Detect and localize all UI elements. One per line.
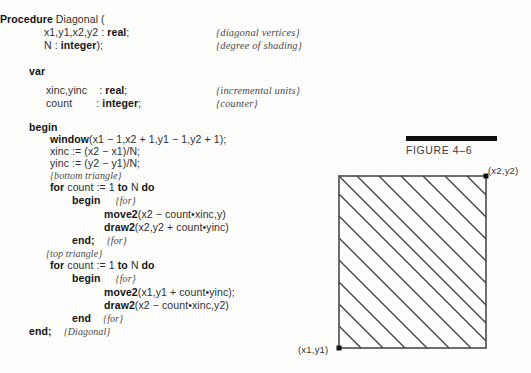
code-keyword: move2 [104,208,138,220]
code-line: begin {for} [72,273,136,284]
hatch-line [339,176,486,323]
vertex-label-x1y1: (x1,y1) [298,344,328,355]
code-text: count : [46,97,102,109]
code-keyword: begin [29,121,58,133]
vertex-dot-bottom-left [337,346,342,351]
code-line: {bottom triangle} [50,170,122,181]
code-text: ); [96,39,103,51]
hatch-line [339,238,449,348]
code-line: window(x1 − 1,x2 + 1,y1 − 1,y2 + 1); [50,134,226,145]
code-text: xinc,yinc : [46,84,105,96]
code-line: count : integer; [46,98,141,109]
code-keyword: draw2 [104,299,135,311]
code-text: (x2 − count•xinc,y) [138,208,226,220]
code-text: (x1 − 1,x2 + 1,y1 − 1,y2 + 1); [89,133,226,145]
code-comment: {for} [116,195,136,206]
code-text: ; [138,97,141,109]
vertex-label-x2y2: (x2,y2) [488,165,518,176]
side-comment: {degree of shading} [216,40,302,51]
code-keyword: integer [61,39,97,51]
code-text: count := 1 [67,181,117,193]
side-comment: {diagonal vertices} [216,27,300,38]
hatch-line [339,260,427,348]
document-page: Procedure Diagonal (x1,y1,x2,y2 : real;N… [0,0,531,373]
code-comment: {bottom triangle} [50,170,122,181]
code-text: xinc := (x2 − x1)/N; [50,145,140,157]
code-keyword: draw2 [104,221,135,233]
code-keyword: begin [72,272,101,284]
code-keyword: for [50,181,67,193]
code-line: end; {Diagonal} [29,326,110,337]
code-line: begin [29,122,58,133]
code-keyword: var [29,65,45,77]
code-line: end {for} [72,313,123,324]
code-comment: {for} [107,235,127,246]
code-comment: {Diagonal} [64,326,111,337]
code-text [101,272,116,284]
code-text: N : [44,39,61,51]
code-text: ; [126,26,129,38]
hatch-line [467,176,486,195]
code-text: (x1,y1 + count•yinc); [138,286,235,298]
code-line: begin {for} [72,195,136,206]
code-line: N : integer); [44,40,103,51]
code-line: {top triangle} [46,248,102,259]
code-text [91,312,103,324]
code-line: var [29,66,45,77]
code-keyword: window [50,133,89,145]
hatched-rectangle-diagram [290,125,531,373]
code-keyword: end; [29,325,52,337]
hatch-line [445,176,486,217]
figure-block: FIGURE 4–6 (x2,y2) (x1,y1) [290,125,531,373]
code-text [52,325,64,337]
code-keyword: integer [102,97,138,109]
code-keyword: real [107,26,126,38]
code-keyword: do [142,181,155,193]
code-listing: Procedure Diagonal (x1,y1,x2,y2 : real;N… [0,0,300,373]
code-line: move2(x2 − count•xinc,y) [104,209,226,220]
code-text: x1,y1,x2,y2 : [44,26,107,38]
code-keyword: begin [72,194,101,206]
code-keyword: for [50,259,67,271]
code-comment: {top triangle} [46,248,102,259]
code-line: for count := 1 to N do [50,182,155,193]
code-text: (x2,y2 + count•yinc) [135,221,229,233]
code-text: Diagonal ( [56,13,105,25]
rectangle-outline [339,176,486,348]
code-text: N [131,259,142,271]
code-line: xinc,yinc : real; [46,85,127,96]
hatch-line [339,216,471,348]
code-text [95,234,107,246]
code-line: end; {for} [72,235,127,246]
hatch-line [357,176,486,305]
code-line: yinc := (y2 − y1)/N; [50,158,140,169]
code-text: (x2 − count•xinc,y2) [135,299,229,311]
code-text: count := 1 [67,259,117,271]
code-keyword: to [118,181,131,193]
code-keyword: to [118,259,131,271]
code-keyword: do [142,259,155,271]
code-text: N [131,181,142,193]
code-line: draw2(x2 − count•xinc,y2) [104,300,229,311]
code-text: yinc := (y2 − y1)/N; [50,157,140,169]
code-text [101,194,116,206]
hatch-line [339,326,361,348]
hatch-lines [339,176,486,348]
hatch-line [339,304,383,348]
code-line: move2(x1,y1 + count•yinc); [104,287,235,298]
code-line: xinc := (x2 − x1)/N; [50,146,140,157]
code-line: x1,y1,x2,y2 : real; [44,27,129,38]
code-line: draw2(x2,y2 + count•yinc) [104,222,229,233]
code-comment: {for} [116,273,136,284]
code-comment: {for} [103,313,123,324]
code-keyword: real [105,84,124,96]
code-keyword: Procedure [0,13,56,25]
code-keyword: end [72,312,91,324]
hatch-line [339,282,405,348]
hatch-line [401,176,486,261]
hatch-line [379,176,486,283]
code-line: for count := 1 to N do [50,260,155,271]
side-comment: {incremental units} [216,85,300,96]
code-keyword: move2 [104,286,138,298]
side-comment: {counter} [216,98,258,109]
